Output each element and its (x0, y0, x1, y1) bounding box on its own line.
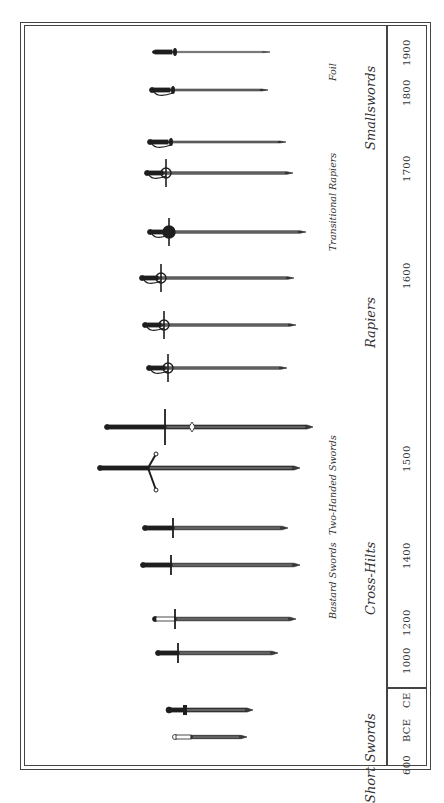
rapier-4-icon (147, 354, 288, 382)
bastard-sword-2-icon (141, 555, 301, 575)
year-label-1700: 1700 (401, 155, 412, 182)
category-label-cross-hilts: Cross-Hilts (363, 541, 378, 614)
year-label-1500: 1500 (401, 445, 412, 472)
year-label-ce: CE (401, 692, 412, 708)
subcategory-label-transitional-rapiers: Transitional Rapiers (327, 153, 338, 251)
category-label-smallswords: Smallswords (363, 66, 378, 150)
transitional-rapier-2-icon (145, 159, 294, 187)
short-sword-2-icon (173, 735, 248, 740)
year-label-1400: 1400 (401, 542, 412, 569)
year-label-1800: 1800 (401, 79, 412, 106)
cross-hilt-2-icon (156, 643, 279, 663)
category-label-rapiers: Rapiers (363, 297, 378, 348)
year-label-1600: 1600 (401, 262, 412, 289)
transitional-rapier-1-icon (148, 138, 287, 147)
two-handed-sword-1-icon (105, 409, 314, 445)
subcategory-label-foil: Foil (327, 63, 338, 81)
year-label-1000: 1000 (401, 647, 412, 674)
rapier-1-icon (148, 218, 307, 246)
bastard-sword-1-icon (143, 518, 289, 538)
smallsword-icon (150, 86, 269, 95)
subcategory-label-two-handed-swords: Two-Handed Swords (327, 435, 338, 535)
short-sword-1-icon (166, 705, 253, 715)
subcategory-label-bastard-swords: Bastard Swords (327, 542, 338, 619)
category-label-short-swords: Short Swords (363, 713, 378, 803)
rapier-3-icon (143, 311, 297, 339)
foil-icon (153, 48, 271, 56)
year-label-1900: 1900 (401, 39, 412, 66)
year-label-bce: BCE (401, 718, 412, 741)
cross-hilt-1-icon (153, 609, 297, 629)
year-label-1200: 1200 (401, 609, 412, 636)
rapier-2-icon (140, 264, 295, 292)
two-handed-sword-2-icon (98, 452, 301, 492)
year-label-600: 600 (401, 755, 412, 775)
